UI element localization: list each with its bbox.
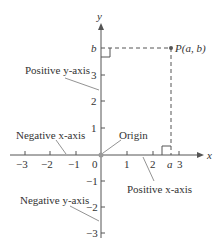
x-axis-arrow-icon (197, 152, 204, 158)
x-tick-label: −2 (41, 158, 53, 170)
coordinate-plane: x y −3 −2 −1 1 2 3 0 a 3 2 1 −1 −2 −3 b (0, 0, 223, 240)
y-axis-label: y (96, 10, 102, 22)
x-tick-label: 2 (150, 158, 156, 170)
x-tick-label: −3 (16, 158, 28, 170)
negative-y-axis-label: Negative y-axis (20, 194, 89, 206)
y-tick-label: 1 (91, 122, 97, 134)
y-tick-label: −1 (86, 175, 98, 187)
x-tick-label: 3 (177, 158, 183, 170)
y-axis-arrow-icon (98, 23, 104, 30)
point-p-label: P(a, b) (174, 42, 206, 55)
right-angle-marker-a (162, 146, 171, 155)
b-label: b (91, 42, 97, 54)
origin-point (99, 153, 104, 158)
a-label: a (167, 158, 173, 170)
leader-origin (103, 140, 121, 153)
x-tick-label: 1 (124, 158, 130, 170)
origin-zero-label: 0 (92, 158, 98, 170)
y-tick-label: 2 (91, 95, 97, 107)
negative-x-axis-label: Negative x-axis (16, 129, 85, 141)
leader-negative-x (56, 140, 66, 154)
right-angle-marker-b (101, 48, 110, 57)
x-tick-label: −1 (68, 158, 80, 170)
positive-x-axis-label: Positive x-axis (127, 183, 192, 195)
y-tick-label: −3 (86, 227, 98, 239)
origin-label: Origin (119, 129, 148, 141)
positive-y-axis-label: Positive y-axis (25, 64, 90, 76)
y-tick-label: 3 (91, 69, 97, 81)
point-p (169, 46, 173, 50)
x-axis-label: x (206, 149, 212, 161)
